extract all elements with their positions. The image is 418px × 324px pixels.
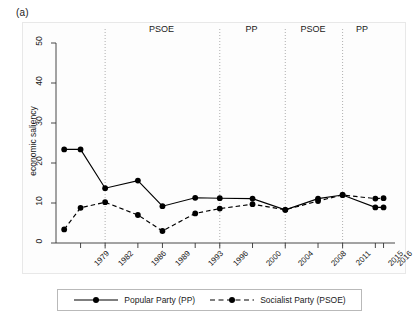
- data-point: [315, 198, 321, 204]
- period-label-pp-3: PP: [356, 24, 368, 34]
- data-point: [102, 185, 108, 191]
- legend-swatch-dashed-line-icon: [209, 294, 255, 306]
- data-point: [381, 195, 387, 201]
- period-label-pp-1: PP: [246, 24, 258, 34]
- data-point: [192, 211, 198, 217]
- data-point: [381, 205, 387, 211]
- data-point: [250, 201, 256, 207]
- data-point: [135, 178, 141, 184]
- data-point: [135, 212, 141, 218]
- data-point: [282, 207, 288, 213]
- legend-swatch-solid-line-icon: [73, 294, 119, 306]
- data-point: [78, 147, 84, 153]
- period-label-psoe-0: PSOE: [149, 24, 174, 34]
- data-point: [192, 195, 198, 201]
- panel-label: (a): [16, 7, 29, 18]
- data-point: [78, 205, 84, 211]
- series-line-pp: [64, 149, 383, 209]
- y-tick-label: 50: [34, 32, 44, 50]
- data-point: [102, 199, 108, 205]
- data-point: [217, 206, 223, 212]
- legend-item-pp: Popular Party (PP): [73, 294, 195, 306]
- chart-canvas: [23, 23, 405, 273]
- series-line-psoe: [64, 195, 383, 231]
- data-point: [372, 196, 378, 202]
- data-point: [61, 227, 67, 233]
- plot-frame: [22, 22, 406, 274]
- y-tick-label: 0: [34, 232, 44, 250]
- data-point: [160, 203, 166, 209]
- legend-label-pp: Popular Party (PP): [124, 295, 195, 305]
- period-label-psoe-2: PSOE: [300, 24, 325, 34]
- data-point: [217, 195, 223, 201]
- figure-panel: (a) 01020304050economic saliency19791982…: [0, 0, 418, 324]
- legend-item-psoe: Socialist Party (PSOE): [209, 294, 346, 306]
- y-axis-title: economic saliency: [28, 86, 38, 196]
- data-point: [250, 196, 256, 202]
- chart-legend: Popular Party (PP) Socialist Party (PSOE…: [57, 289, 362, 311]
- data-point: [340, 192, 346, 198]
- data-point: [372, 205, 378, 211]
- legend-label-psoe: Socialist Party (PSOE): [260, 295, 346, 305]
- data-point: [61, 147, 67, 153]
- data-point: [160, 228, 166, 234]
